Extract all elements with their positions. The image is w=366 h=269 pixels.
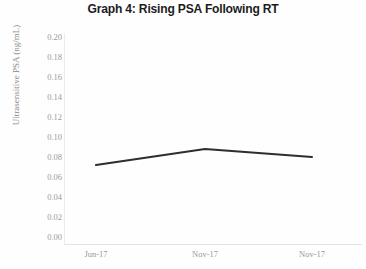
x-tick-label: Nov-17 — [299, 249, 325, 259]
x-tick-label: Nov-17 — [192, 249, 218, 259]
data-series-line — [96, 149, 312, 165]
x-tick-label: Jun-17 — [84, 249, 107, 259]
plot-canvas — [0, 0, 366, 269]
chart-page: Graph 4: Rising PSA Following RT Ultrase… — [0, 0, 366, 269]
